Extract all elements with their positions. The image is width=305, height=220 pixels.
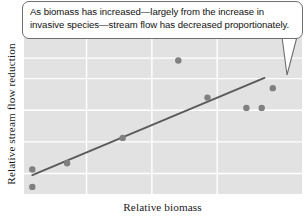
y-axis-label: Relative stream flow reduction [5,34,17,194]
x-axis-label: Relative biomass [20,201,305,213]
data-point [258,105,264,111]
data-point [64,160,70,166]
figure-container: Relative stream flow reduction Relative … [0,0,305,220]
data-point [243,105,249,111]
data-point [204,94,210,100]
callout-text: As biomass has increased—largely from th… [30,5,296,32]
data-point [29,184,35,190]
data-point [270,85,276,91]
callout-annotation: As biomass has increased—largely from th… [22,1,303,41]
data-point [29,166,35,172]
data-point [119,135,125,141]
data-point [175,57,181,63]
